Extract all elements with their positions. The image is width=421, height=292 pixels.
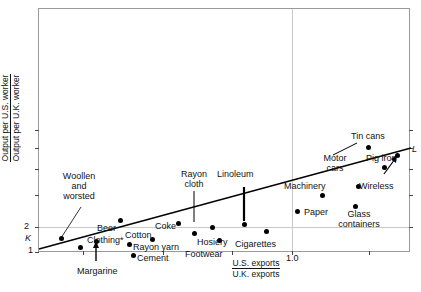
label-footwear: Footwear — [185, 249, 223, 259]
label-cement: Cement — [137, 253, 169, 263]
k-endpoint-label: K — [25, 234, 31, 243]
label-rayon-cloth-line2: cloth — [184, 179, 203, 189]
data-point-hosiery[interactable] — [210, 225, 215, 230]
data-point-machinery[interactable] — [320, 193, 325, 198]
leader-woollen — [61, 207, 81, 238]
x-axis-numerator: U.S. exports — [232, 258, 281, 269]
label-woollen-line3: worsted — [63, 191, 95, 201]
label-woollen-line2: and — [71, 181, 86, 191]
label-motor-cars: Motor cars — [315, 153, 355, 173]
x-axis-denominator: U.K. exports — [232, 269, 281, 279]
label-tin-cans: Tin cans — [351, 131, 385, 141]
label-glass-containers: Glass containers — [329, 209, 389, 229]
data-point-woollen-and-worsted[interactable] — [59, 236, 64, 241]
x-axis-fraction: U.S. exports U.K. exports — [232, 258, 281, 279]
data-point-linoleum[interactable] — [242, 222, 247, 227]
label-motor-cars-line2: cars — [326, 163, 343, 173]
data-point-cement[interactable] — [131, 253, 136, 258]
label-pig-iron: Pig iron — [366, 153, 397, 163]
label-woollen-line1: Woollen — [63, 171, 95, 181]
y-tick-label-1: 1 — [28, 246, 33, 255]
label-woollen-and-worsted: Woollen and worsted — [47, 171, 111, 201]
data-point-rayon-cloth[interactable] — [192, 231, 197, 236]
label-paper: Paper — [304, 207, 328, 217]
label-hosiery: Hosiery — [197, 237, 228, 247]
y-tick-label-2: 2 — [24, 222, 29, 231]
label-coke: Coke — [155, 221, 176, 231]
data-point-coke[interactable] — [176, 221, 181, 226]
data-point-rayon-yarn[interactable] — [127, 242, 132, 247]
label-machinery: Machinery — [284, 181, 326, 191]
label-glass-line1: Glass — [347, 209, 370, 219]
data-point-glass-containers[interactable] — [353, 204, 358, 209]
label-wireless: Wireless — [359, 181, 394, 191]
label-rayon-yarn: Rayon yarn — [133, 242, 179, 252]
data-point-tin-cans[interactable] — [366, 145, 371, 150]
label-glass-line2: containers — [338, 219, 380, 229]
plot-area: Woollen and worsted Clothing* Margarine … — [38, 8, 410, 252]
l-endpoint-label: L — [412, 144, 417, 154]
y-axis-denominator: Output per U.K. worker — [11, 74, 21, 163]
data-point-cigarettes[interactable] — [264, 229, 269, 234]
x-tick-label-1-0: 1.0 — [286, 254, 299, 263]
data-point-beer[interactable] — [118, 218, 123, 223]
data-point-pig-iron[interactable] — [382, 165, 387, 170]
y-axis-fraction: Output per U.S. worker Output per U.K. w… — [0, 74, 21, 163]
data-point-paper[interactable] — [295, 209, 300, 214]
label-cigarettes: Cigarettes — [235, 239, 276, 249]
y-axis-numerator: Output per U.S. worker — [0, 74, 11, 163]
label-beer: Beer — [97, 223, 116, 233]
label-rayon-cloth-line1: Rayon — [181, 169, 207, 179]
label-cotton: Cotton — [125, 230, 152, 240]
label-clothing: Clothing* — [87, 235, 124, 245]
label-margarine: Margarine — [77, 266, 118, 276]
label-linoleum: Linoleum — [217, 169, 254, 179]
data-point-clothing[interactable] — [78, 245, 83, 250]
label-motor-cars-line1: Motor — [323, 153, 346, 163]
label-rayon-cloth: Rayon cloth — [169, 169, 219, 189]
chart-figure: Output per U.S. worker Output per U.K. w… — [0, 0, 421, 292]
